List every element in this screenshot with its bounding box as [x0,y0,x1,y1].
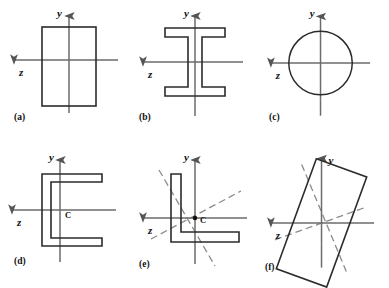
y-axis-label-e: y [182,151,189,163]
panel-c: y z (c) [259,0,388,144]
caption-e: (e) [139,259,150,269]
y-axis-label-f: y [326,154,333,166]
z-axis-label-c: z [275,69,281,81]
caption-c: (c) [269,112,280,122]
caption-b: (b) [139,112,151,122]
z-axis-label-d: z [16,216,22,228]
panel-b: y z (b) [129,0,258,144]
z-axis-label-f: z [275,229,281,241]
caption-d: (d) [14,256,26,266]
centroid-marker-e [193,216,198,221]
panel-f: y z (f) [259,144,388,288]
angle-section [171,174,239,242]
y-axis-label-b: y [182,7,189,19]
panel-d: y z C (d) [0,144,129,288]
caption-f: (f) [265,262,275,272]
y-axis-label-c: y [308,7,315,19]
panel-e: y z C (e) [129,144,258,288]
z-axis-label-a: z [18,66,24,78]
caption-a: (a) [14,112,25,122]
cross-section-figure: y z (a) y z (b) y z (c) [0,0,389,288]
panel-a: y z (a) [0,0,129,144]
y-axis-label-a: y [55,7,62,19]
y-axis-label-d: y [47,151,54,163]
centroid-label-e: C [200,215,206,225]
z-axis-label-e: z [147,224,153,236]
z-axis-label-b: z [147,68,153,80]
centroid-label-d: C [65,210,71,220]
